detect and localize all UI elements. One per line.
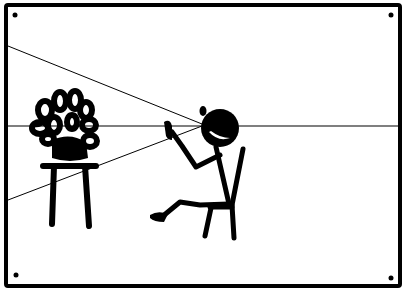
- corner-dot-top-left: [13, 13, 18, 18]
- corner-dot-top-right: [389, 13, 394, 18]
- corner-dot-bottom-right: [389, 276, 394, 281]
- hair-tuft: [200, 106, 207, 116]
- head: [201, 109, 239, 147]
- plant-pot: [52, 136, 88, 161]
- corner-dot-bottom-left: [14, 273, 19, 278]
- comic-panel: [0, 0, 404, 296]
